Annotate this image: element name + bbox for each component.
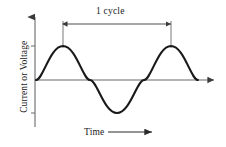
- x-axis-label: Time: [84, 128, 105, 138]
- cycle-label: 1 cycle: [96, 7, 125, 17]
- y-axis-label: Current or Voltage: [20, 30, 30, 124]
- ac-waveform-figure: 1 cycle Current or Voltage Time: [0, 0, 226, 147]
- waveform-svg: [0, 0, 226, 147]
